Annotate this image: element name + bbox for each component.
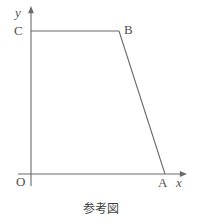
- figure-caption: 参考図: [0, 203, 201, 215]
- origin-label: O: [16, 175, 25, 188]
- y-axis-arrowhead: [28, 6, 34, 13]
- segment-ba: [119, 31, 165, 174]
- point-label-a: A: [158, 176, 167, 189]
- reference-figure: y x O C B A 参考図: [0, 0, 201, 224]
- y-axis-label: y: [15, 6, 21, 19]
- coordinate-diagram: [0, 0, 201, 224]
- point-label-c: C: [14, 24, 23, 37]
- point-label-b: B: [124, 23, 133, 36]
- x-axis-label: x: [176, 176, 182, 189]
